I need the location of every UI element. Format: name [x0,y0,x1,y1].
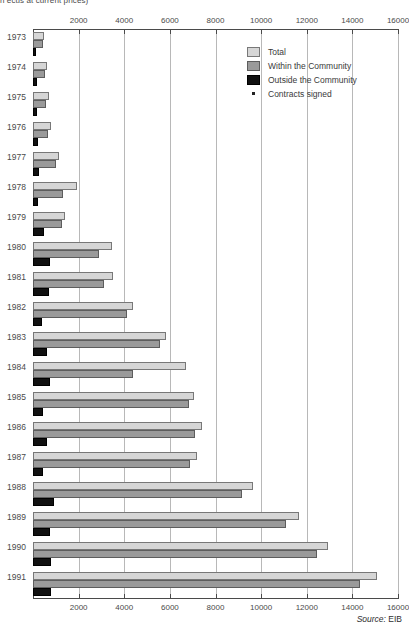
bar-outside [33,378,50,386]
plot-area: 1973197419751976197719781979198019811982… [33,29,398,599]
year-group: 1981 [33,269,398,299]
x-tick-label: 12000 [296,16,318,25]
x-tick-label: 16000 [387,16,409,25]
x-tick-label: 14000 [341,16,363,25]
gridline [398,29,399,599]
year-label: 1985 [7,392,26,402]
year-group: 1987 [33,449,398,479]
bar-within [33,100,46,108]
bar-within [33,130,48,138]
bar-total [33,542,328,550]
bar-total [33,92,49,100]
year-group: 1977 [33,149,398,179]
source-label: Source: [357,614,386,624]
bar-total [33,302,133,310]
year-group: 1984 [33,359,398,389]
x-tick-label: 2000 [70,16,88,25]
bar-within [33,370,133,378]
x-tick-label: 10000 [250,603,272,612]
year-group: 1983 [33,329,398,359]
legend-label: Total [268,47,286,57]
x-tick-label: 4000 [115,16,133,25]
bar-total [33,482,253,490]
x-tick-label: 12000 [296,603,318,612]
x-tick-label: 2000 [70,603,88,612]
bar-outside [33,528,50,536]
year-label: 1978 [7,182,26,192]
bar-outside [33,438,47,446]
bar-within [33,220,62,228]
year-group: 1988 [33,479,398,509]
year-label: 1979 [7,212,26,222]
year-group: 1986 [33,419,398,449]
year-label: 1977 [7,152,26,162]
bar-within [33,340,160,348]
bar-total [33,212,65,220]
bar-outside [33,318,42,326]
year-label: 1986 [7,422,26,432]
bar-outside [33,558,51,566]
x-tick-label: 10000 [250,16,272,25]
contracts-signed-marker-icon [247,89,260,99]
year-label: 1989 [7,512,26,522]
x-tick-label: 6000 [161,603,179,612]
chart-legend: TotalWithin the CommunityOutside the Com… [247,45,357,101]
bar-total [33,572,377,580]
x-tick-label: 6000 [161,16,179,25]
bar-outside [33,258,50,266]
year-group: 1980 [33,239,398,269]
legend-item-signed: Contracts signed [247,87,357,101]
x-tick-label: 16000 [387,603,409,612]
bar-total [33,62,47,70]
bar-outside [33,138,38,146]
year-group: 1985 [33,389,398,419]
bar-within [33,160,56,168]
bar-total [33,392,194,400]
bar-outside [33,288,49,296]
legend-label: Within the Community [268,61,351,71]
year-group: 1976 [33,119,398,149]
bar-total [33,272,113,280]
x-tick-label: 14000 [341,603,363,612]
bar-total [33,332,166,340]
year-group: 1991 [33,569,398,599]
bar-total [33,152,59,160]
bar-within [33,490,242,498]
bar-outside [33,78,37,86]
bar-within [33,550,317,558]
bar-within [33,310,127,318]
legend-label: Contracts signed [268,89,332,99]
bar-outside [33,498,54,506]
year-label: 1976 [7,122,26,132]
year-group: 1989 [33,509,398,539]
legend-item-within: Within the Community [247,59,357,73]
year-group: 1978 [33,179,398,209]
bar-outside [33,468,43,476]
year-label: 1984 [7,362,26,372]
bar-within [33,580,360,588]
bar-total [33,122,51,130]
year-label: 1983 [7,332,26,342]
bar-total [33,182,77,190]
bar-within [33,520,286,528]
source-value: EIB [388,614,402,624]
x-tick-label: 8000 [207,603,225,612]
bar-total [33,32,44,40]
chart-subtitle: n ecus at current prices) [0,0,88,5]
bar-outside [33,108,37,116]
x-tick-label: 8000 [207,16,225,25]
year-group: 1982 [33,299,398,329]
year-label: 1981 [7,272,26,282]
bar-within [33,250,99,258]
bar-within [33,40,43,48]
legend-swatch-total [247,47,260,57]
year-group: 1979 [33,209,398,239]
bar-total [33,362,186,370]
bar-outside [33,228,44,236]
year-label: 1988 [7,482,26,492]
year-group: 1990 [33,539,398,569]
legend-swatch-outside [247,75,260,85]
year-label: 1987 [7,452,26,462]
axis-tick [398,29,399,34]
bar-outside [33,198,38,206]
